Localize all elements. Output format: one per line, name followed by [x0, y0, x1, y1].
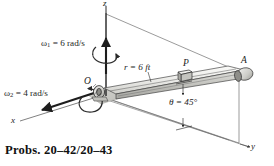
figure-container: z x y O P A ω1 = 6 rad/s ω2 = 4 rad/s r … — [0, 0, 274, 166]
omega1-label: ω1 = 6 rad/s — [41, 39, 85, 49]
angle-dimension-label: θ = 45° — [169, 98, 197, 107]
omega2-arrow — [42, 92, 97, 110]
axis-label-y: y — [251, 142, 255, 151]
axis-y-arrow — [240, 144, 250, 147]
point-label-a: A — [241, 56, 247, 66]
theta-reference-line — [104, 99, 229, 140]
axis-x — [20, 96, 100, 121]
figure-caption: Probs. 20–42/20–43 — [5, 143, 113, 158]
point-label-p: P — [183, 59, 189, 69]
omega1-spin-arrow — [93, 47, 117, 63]
axis-label-z: z — [103, 0, 107, 8]
radius-dimension-label: r = 6 ft — [124, 63, 150, 72]
theta-lower-bar — [176, 126, 192, 130]
omega2-label: ω2 = 4 rad/s — [4, 89, 48, 99]
pivot-bore — [97, 88, 102, 95]
mechanics-diagram-svg — [0, 0, 274, 166]
collar-p — [178, 70, 192, 82]
omega1-value: = 6 rad/s — [50, 38, 85, 48]
point-label-o: O — [84, 77, 91, 87]
pivot-base — [92, 97, 108, 101]
omega2-value: = 4 rad/s — [13, 88, 48, 98]
axis-label-x: x — [11, 116, 15, 125]
